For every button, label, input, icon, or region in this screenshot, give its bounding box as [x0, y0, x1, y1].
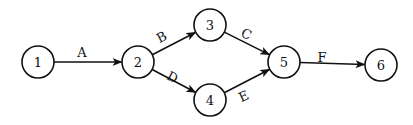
node-4: 4 — [194, 84, 226, 116]
edge-b: B — [152, 28, 195, 54]
edge-f: F — [300, 50, 365, 65]
edge-arrow-e — [224, 70, 269, 93]
node-label-4: 4 — [206, 93, 214, 108]
node-6: 6 — [365, 49, 397, 81]
edge-arrow-f — [300, 62, 365, 64]
node-label-5: 5 — [280, 55, 288, 70]
edge-d: D — [152, 68, 195, 92]
node-label-1: 1 — [34, 55, 42, 70]
edge-label-a: A — [76, 45, 87, 60]
edge-label-e: E — [236, 87, 251, 105]
edge-label-f: F — [317, 50, 326, 65]
node-label-6: 6 — [377, 58, 385, 73]
edge-a: A — [54, 45, 122, 63]
network-diagram: ABDCEF 123456 — [0, 0, 413, 125]
edge-c: C — [224, 25, 269, 54]
node-label-2: 2 — [134, 55, 142, 70]
node-5: 5 — [268, 46, 300, 78]
node-3: 3 — [194, 9, 226, 41]
edge-e: E — [224, 70, 269, 105]
edge-label-b: B — [154, 28, 169, 46]
node-2: 2 — [122, 46, 154, 78]
node-1: 1 — [22, 46, 54, 78]
node-label-3: 3 — [206, 18, 214, 33]
